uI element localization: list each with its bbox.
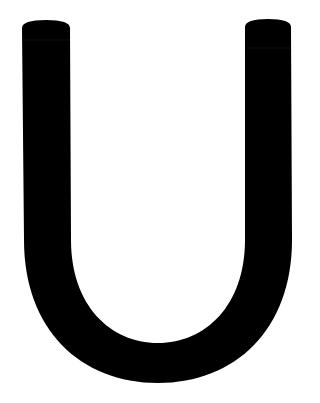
u-shape-icon bbox=[0, 0, 320, 403]
letter-u-glyph: U bbox=[0, 0, 320, 403]
